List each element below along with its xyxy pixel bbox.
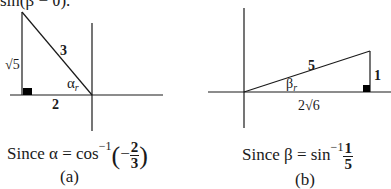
panel-a-hypotenuse (22, 12, 92, 95)
panel-a-label: (a) (60, 167, 79, 187)
fraction-denominator: 3 (130, 156, 140, 171)
angle-subscript: r (293, 82, 297, 93)
panel-b-right-angle-marker (363, 85, 370, 92)
open-paren: ( (111, 141, 120, 170)
panel-b-vertical-label: 1 (374, 68, 381, 84)
panel-b-angle-label: βr (286, 76, 297, 92)
panel-a-right-angle-marker (23, 88, 32, 95)
caption-fraction: 15 (343, 141, 353, 172)
panel-a-horizontal-label: 2 (52, 97, 59, 113)
caption-exponent: −1 (331, 140, 344, 154)
panel-a-hypotenuse-label: 3 (60, 43, 67, 59)
panel-a-vertical-label: √5 (5, 57, 20, 73)
angle-symbol: α (67, 75, 75, 91)
panel-a-triangle (10, 12, 163, 131)
caption-text: Since α = cos (7, 144, 99, 163)
panel-b-label: (b) (295, 170, 315, 189)
panel-b-horizontal-label: 2√6 (298, 98, 320, 114)
caption-exponent: −1 (99, 139, 112, 153)
panel-b-hypotenuse-label: 5 (308, 58, 315, 74)
fraction-numerator: 2 (130, 140, 140, 156)
fraction-denominator: 5 (343, 157, 353, 172)
angle-subscript: r (75, 82, 79, 93)
panel-b-hypotenuse (244, 51, 370, 92)
close-paren: ) (139, 141, 148, 170)
panel-b-caption: Since β = sin−115 (242, 141, 353, 172)
caption-fraction: 23 (130, 140, 140, 171)
caption-sign: − (120, 144, 130, 163)
fraction-numerator: 1 (343, 141, 353, 157)
caption-text: Since β = sin (242, 145, 331, 164)
panel-a-angle-label: αr (67, 75, 79, 92)
